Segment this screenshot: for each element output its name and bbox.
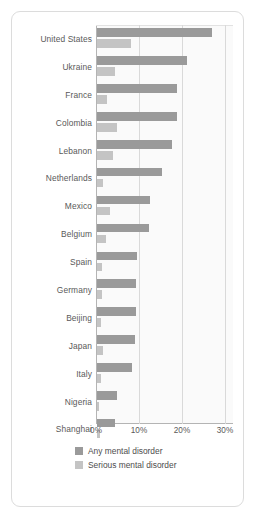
bar-any xyxy=(97,335,135,344)
category-label: Japan xyxy=(69,341,92,351)
category-label: Germany xyxy=(57,285,92,295)
bar-any xyxy=(97,363,132,372)
bar-row: France xyxy=(12,81,245,109)
bar-row: Lebanon xyxy=(12,137,245,165)
x-tick-label: 0% xyxy=(90,426,102,435)
bar-row: Nigeria xyxy=(12,388,245,416)
legend-item[interactable]: Any mental disorder xyxy=(75,446,245,456)
bar-any xyxy=(97,112,177,121)
bar-serious xyxy=(97,235,106,244)
legend-swatch-icon xyxy=(75,461,83,469)
bar-any xyxy=(97,391,117,400)
bar-serious xyxy=(97,346,103,355)
legend-swatch-icon xyxy=(75,447,83,455)
bar-serious xyxy=(97,151,113,160)
category-label: Italy xyxy=(76,369,92,379)
bar-row: Belgium xyxy=(12,220,245,248)
bar-row: Colombia xyxy=(12,109,245,137)
bar-serious xyxy=(97,207,110,216)
bar-any xyxy=(97,168,162,177)
bar-chart: United StatesUkraineFranceColombiaLebano… xyxy=(12,12,245,432)
category-label: Netherlands xyxy=(46,173,92,183)
category-label: Mexico xyxy=(65,201,92,211)
x-tick-label: 30% xyxy=(217,426,233,435)
bar-row: Germany xyxy=(12,276,245,304)
bar-serious xyxy=(97,318,101,327)
category-label: Beijing xyxy=(66,313,92,323)
category-label: Spain xyxy=(70,257,92,267)
bar-any xyxy=(97,28,212,37)
bar-row: United States xyxy=(12,25,245,53)
category-label: Shanghai xyxy=(56,424,92,434)
bar-any xyxy=(97,224,149,233)
bar-serious xyxy=(97,123,117,132)
bar-any xyxy=(97,56,187,65)
bar-serious xyxy=(97,402,99,411)
bar-any xyxy=(97,307,136,316)
category-label: United States xyxy=(40,34,92,44)
x-tick-label: 20% xyxy=(174,426,190,435)
bar-serious xyxy=(97,95,107,104)
bar-row: Japan xyxy=(12,332,245,360)
chart-panel: United StatesUkraineFranceColombiaLebano… xyxy=(11,11,244,507)
category-label: Belgium xyxy=(61,229,92,239)
bar-serious xyxy=(97,374,101,383)
bar-row: Mexico xyxy=(12,192,245,220)
category-label: Ukraine xyxy=(62,62,92,72)
category-label: Nigeria xyxy=(65,397,92,407)
category-label: France xyxy=(65,90,92,100)
bar-row: Spain xyxy=(12,248,245,276)
bar-rows: United StatesUkraineFranceColombiaLebano… xyxy=(12,25,245,424)
legend-label: Serious mental disorder xyxy=(88,460,176,470)
bar-row: Ukraine xyxy=(12,53,245,81)
x-axis: 0%10%20%30% xyxy=(96,426,233,442)
legend-item[interactable]: Serious mental disorder xyxy=(75,460,245,470)
bar-any xyxy=(97,84,177,93)
bar-row: Beijing xyxy=(12,304,245,332)
bar-serious xyxy=(97,263,102,272)
bar-serious xyxy=(97,179,103,188)
chart-legend: Any mental disorderSerious mental disord… xyxy=(12,446,245,474)
category-label: Colombia xyxy=(56,118,92,128)
bar-any xyxy=(97,140,172,149)
bar-any xyxy=(97,279,136,288)
bar-any xyxy=(97,196,150,205)
bar-serious xyxy=(97,39,131,48)
category-label: Lebanon xyxy=(59,146,92,156)
bar-any xyxy=(97,252,137,261)
bar-row: Netherlands xyxy=(12,164,245,192)
x-tick-label: 10% xyxy=(131,426,147,435)
bar-serious xyxy=(97,67,115,76)
legend-label: Any mental disorder xyxy=(88,446,162,456)
bar-row: Italy xyxy=(12,360,245,388)
bar-serious xyxy=(97,290,102,299)
